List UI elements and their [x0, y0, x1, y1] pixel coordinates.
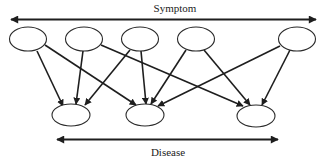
symptom-disease-diagram: Symptom Disease	[0, 0, 325, 160]
symptom-node-s1	[10, 27, 47, 51]
disease-node-d2	[126, 104, 164, 126]
disease-node-d1	[52, 104, 90, 126]
disease-label: Disease	[151, 146, 185, 158]
symptom-node-s2	[66, 27, 103, 51]
edge-s5-d3	[262, 50, 290, 105]
disease-nodes	[52, 104, 275, 127]
symptom-node-s5	[279, 27, 316, 51]
symptom-node-s3	[122, 27, 159, 51]
edges	[37, 45, 290, 106]
symptom-nodes	[10, 27, 316, 51]
edge-s4-d2	[151, 50, 186, 104]
disease-node-d3	[237, 105, 275, 127]
edge-s2-d1	[76, 51, 83, 104]
edge-s3-d2	[141, 51, 146, 104]
edge-s4-d3	[204, 50, 250, 105]
edge-s5-d2	[158, 46, 280, 106]
edge-s1-d1	[37, 51, 63, 106]
symptom-node-s4	[178, 27, 215, 51]
symptom-label: Symptom	[154, 2, 197, 14]
